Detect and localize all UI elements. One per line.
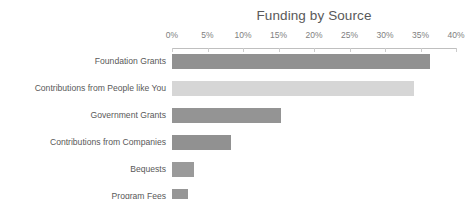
- x-axis-tick-mark: [456, 48, 457, 52]
- category-label: Government Grants: [0, 108, 166, 123]
- x-axis-tick-mark: [279, 48, 280, 52]
- category-label: Contributions from People like You: [0, 81, 166, 96]
- x-axis-tick-label: 15%: [270, 30, 287, 40]
- bar: [172, 81, 414, 96]
- x-axis-tick-label: 0%: [166, 30, 178, 40]
- x-axis-tick-label: 20%: [305, 30, 322, 40]
- x-axis-tick-label: 30%: [376, 30, 393, 40]
- x-axis-tick-mark: [172, 48, 173, 52]
- x-axis-tick-mark: [385, 48, 386, 52]
- x-axis-tick-label: 10%: [234, 30, 251, 40]
- x-axis-tick-label: 5%: [201, 30, 213, 40]
- bar: [172, 162, 194, 177]
- chart-title: Funding by Source: [172, 8, 456, 23]
- x-axis-tick-mark: [314, 48, 315, 52]
- category-label: Contributions from Companies: [0, 135, 166, 150]
- x-axis-tick-label: 40%: [447, 30, 464, 40]
- x-axis-tick-mark: [208, 48, 209, 52]
- category-label: Bequests: [0, 162, 166, 177]
- x-axis-tick-label: 35%: [412, 30, 429, 40]
- bar: [172, 54, 430, 69]
- x-axis-tick-mark: [350, 48, 351, 52]
- category-label: Foundation Grants: [0, 54, 166, 69]
- x-axis-tick-mark: [243, 48, 244, 52]
- bar: [172, 108, 281, 123]
- bar: [172, 135, 231, 150]
- x-axis-tick-mark: [421, 48, 422, 52]
- x-axis-tick-label: 25%: [341, 30, 358, 40]
- category-label: Program Fees: [0, 189, 166, 199]
- funding-by-source-chart: Funding by Source 0%5%10%15%20%25%30%35%…: [0, 0, 472, 199]
- bar: [172, 189, 188, 199]
